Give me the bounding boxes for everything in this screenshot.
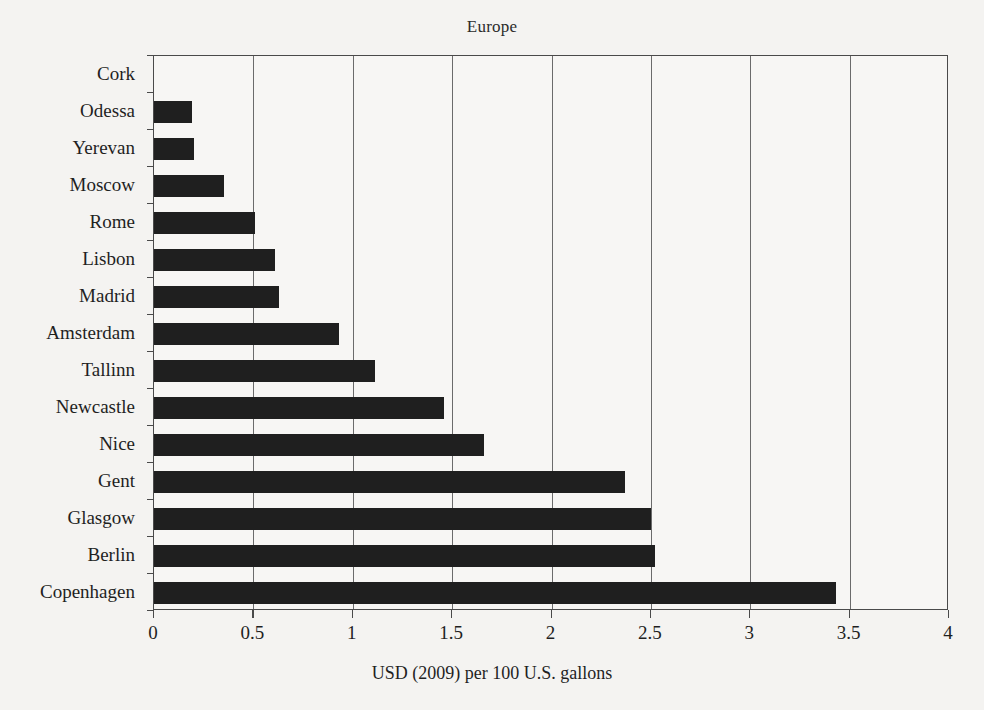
bar-row	[154, 500, 947, 537]
x-axis-tick-label: 0.5	[241, 622, 265, 644]
x-axis-tick-label: 2	[546, 622, 556, 644]
y-axis-label-berlin: Berlin	[88, 544, 136, 566]
x-axis-tick-label: 3	[745, 622, 755, 644]
x-axis-tick-label: 0	[148, 622, 158, 644]
bar-row	[154, 315, 947, 352]
bar-newcastle	[154, 397, 444, 419]
y-axis-label-gent: Gent	[98, 470, 135, 492]
bar-row	[154, 278, 947, 315]
y-axis-label-yerevan: Yerevan	[73, 137, 135, 159]
bar-gent	[154, 471, 625, 493]
x-axis-tick	[650, 610, 651, 618]
y-axis-tick	[147, 203, 154, 204]
y-axis-tick	[147, 166, 154, 167]
bar-row	[154, 389, 947, 426]
y-axis-tick	[147, 55, 154, 56]
bar-odessa	[154, 101, 192, 123]
bar-row	[154, 93, 947, 130]
y-axis-tick	[147, 351, 154, 352]
x-axis-tick	[352, 610, 353, 618]
y-axis-tick	[147, 129, 154, 130]
bars	[154, 56, 947, 609]
x-axis-tick	[849, 610, 850, 618]
bar-chart: Europe CorkOdessaYerevanMoscowRomeLisbon…	[0, 0, 984, 710]
bar-row	[154, 352, 947, 389]
y-axis-tick	[147, 277, 154, 278]
y-axis-labels: CorkOdessaYerevanMoscowRomeLisbonMadridA…	[0, 55, 147, 610]
y-axis-label-nice: Nice	[99, 433, 135, 455]
y-axis-tick	[147, 314, 154, 315]
x-axis-ticks: 00.511.522.533.54	[153, 610, 948, 655]
bar-yerevan	[154, 138, 194, 160]
bar-glasgow	[154, 508, 651, 530]
y-axis-label-glasgow: Glasgow	[67, 507, 135, 529]
y-axis-label-moscow: Moscow	[70, 174, 135, 196]
bar-rome	[154, 212, 255, 234]
y-axis-tick	[147, 462, 154, 463]
y-axis-label-copenhagen: Copenhagen	[40, 581, 135, 603]
y-axis-label-lisbon: Lisbon	[82, 248, 135, 270]
bar-moscow	[154, 175, 224, 197]
x-axis-title: USD (2009) per 100 U.S. gallons	[0, 663, 984, 684]
y-axis-label-tallinn: Tallinn	[81, 359, 135, 381]
x-axis-tick	[551, 610, 552, 618]
y-axis-label-madrid: Madrid	[79, 285, 135, 307]
bar-amsterdam	[154, 323, 339, 345]
bar-row	[154, 574, 947, 611]
x-axis-tick-label: 4	[943, 622, 953, 644]
y-axis-tick	[147, 425, 154, 426]
y-axis-tick	[147, 499, 154, 500]
bar-berlin	[154, 545, 655, 567]
x-axis-tick-label: 1.5	[439, 622, 463, 644]
x-axis-tick	[948, 610, 949, 618]
y-axis-label-newcastle: Newcastle	[56, 396, 135, 418]
bar-madrid	[154, 286, 279, 308]
x-axis-tick	[451, 610, 452, 618]
bar-nice	[154, 434, 484, 456]
bar-row	[154, 241, 947, 278]
x-axis-tick-label: 2.5	[638, 622, 662, 644]
y-axis-tick	[147, 388, 154, 389]
y-axis-tick	[147, 573, 154, 574]
bar-lisbon	[154, 249, 275, 271]
x-axis-tick	[252, 610, 253, 618]
bar-tallinn	[154, 360, 375, 382]
y-axis-label-odessa: Odessa	[80, 100, 135, 122]
y-axis-label-rome: Rome	[90, 211, 135, 233]
bar-row	[154, 537, 947, 574]
bar-row	[154, 463, 947, 500]
bar-row	[154, 130, 947, 167]
bar-copenhagen	[154, 582, 836, 604]
chart-title: Europe	[0, 17, 984, 37]
bar-row	[154, 167, 947, 204]
x-axis-tick	[749, 610, 750, 618]
y-axis-tick	[147, 536, 154, 537]
y-axis-label-amsterdam: Amsterdam	[46, 322, 135, 344]
bar-row	[154, 56, 947, 93]
y-axis-tick	[147, 240, 154, 241]
x-axis-tick	[153, 610, 154, 618]
bar-row	[154, 204, 947, 241]
x-axis-tick-label: 1	[347, 622, 357, 644]
plot-area	[153, 55, 948, 610]
bar-row	[154, 426, 947, 463]
x-axis-tick-label: 3.5	[837, 622, 861, 644]
y-axis-tick	[147, 92, 154, 93]
y-axis-label-cork: Cork	[97, 63, 135, 85]
